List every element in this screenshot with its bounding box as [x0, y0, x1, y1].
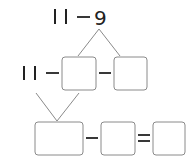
bottom-row — [35, 122, 185, 155]
merge-line-left — [36, 93, 57, 121]
split-line-right — [99, 29, 120, 56]
middle-row — [24, 57, 147, 90]
answer-box-1[interactable] — [62, 57, 96, 90]
split-line-left — [78, 29, 99, 56]
answer-box-2[interactable] — [114, 57, 147, 90]
answer-box-4[interactable] — [101, 122, 135, 155]
merge-line-right — [57, 93, 79, 121]
top-expression: 9 — [55, 6, 107, 30]
number-bond-diagram: 9 — [0, 0, 194, 167]
answer-box-5[interactable] — [153, 122, 185, 155]
answer-box-3[interactable] — [35, 122, 83, 155]
top-right-number: 9 — [94, 6, 107, 30]
